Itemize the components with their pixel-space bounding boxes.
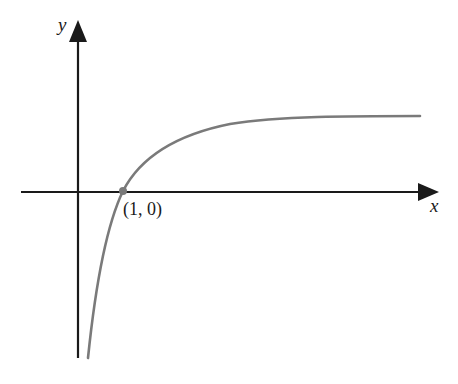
intercept-point (119, 187, 127, 195)
function-curve (88, 116, 420, 358)
y-axis-label: y (58, 14, 66, 36)
y-axis-arrow-icon (69, 20, 87, 42)
point-label: (1, 0) (123, 199, 162, 220)
graph-canvas (0, 0, 458, 384)
x-axis-label: x (430, 195, 438, 217)
